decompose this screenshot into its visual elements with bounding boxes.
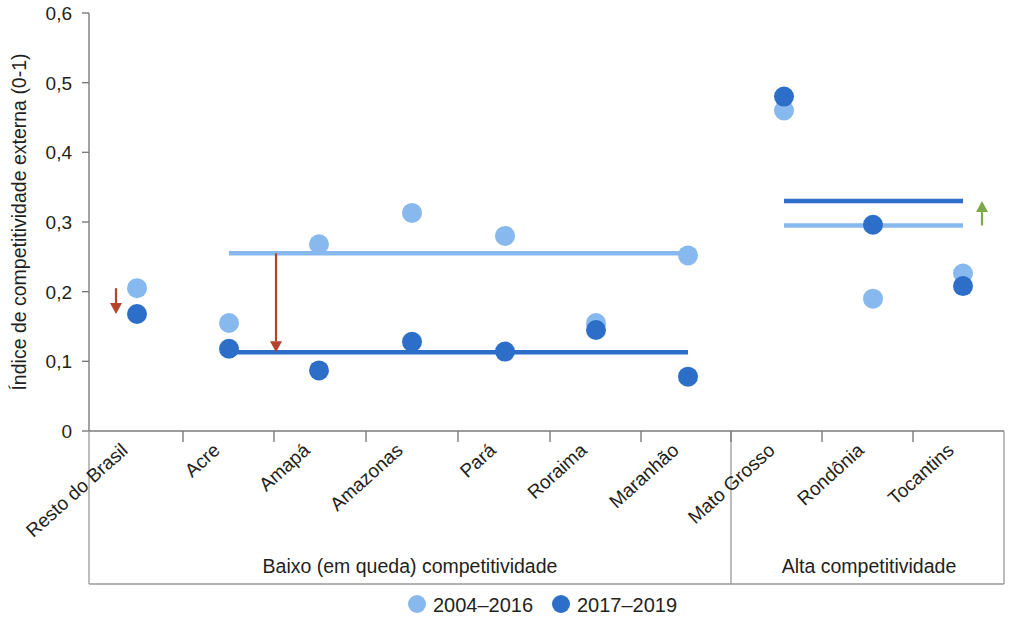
y-tick-label-1: 0,1: [46, 351, 72, 372]
competitiveness-index-scatter-chart: 00,10,20,30,40,50,6 Resto do BrasilAcreA…: [0, 0, 1010, 619]
data-point-2017-2019-roraima: [586, 320, 606, 340]
category-labels-group: Resto do BrasilAcreAmapáAmazonasParáRora…: [22, 439, 958, 541]
data-point-2004-2016-amazonas: [402, 203, 422, 223]
legend-swatch-2004-2016: [408, 595, 426, 613]
x-axis-label-acre: Acre: [181, 439, 224, 481]
data-point-2017-2019-pará: [495, 342, 515, 362]
decline-arrow-resto-do-brasil-head: [110, 303, 122, 314]
chart-container: 00,10,20,30,40,50,6 Resto do BrasilAcreA…: [0, 0, 1010, 619]
x-axis-label-roraima: Roraima: [523, 439, 591, 503]
group-label-low: Baixo (em queda) competitividade: [263, 555, 558, 577]
legend-label-2004-2016: 2004–2016: [433, 594, 533, 616]
x-axis-label-rondônia: Rondônia: [793, 439, 868, 509]
x-axis-label-amazonas: Amazonas: [326, 439, 407, 515]
y-tick-label-5: 0,5: [46, 73, 72, 94]
data-point-2017-2019-amapá: [309, 360, 329, 380]
y-axis-title: Índice de competitividade externa (0-1): [8, 53, 30, 390]
legend-swatch-2017-2019: [552, 595, 570, 613]
x-axis-ticks: [183, 431, 913, 442]
x-axis-label-resto-do-brasil: Resto do Brasil: [22, 439, 132, 541]
data-point-2017-2019-tocantins: [953, 276, 973, 296]
y-tick-label-3: 0,3: [46, 212, 72, 233]
data-point-2017-2019-resto-do-brasil: [127, 304, 147, 324]
rise-arrow-high-group-head: [976, 201, 988, 212]
data-point-2017-2019-amazonas: [402, 332, 422, 352]
x-axis-label-pará: Pará: [456, 439, 500, 482]
data-point-2004-2016-acre: [219, 313, 239, 333]
data-point-2004-2016-maranhão: [678, 245, 698, 265]
x-axis-label-amapá: Amapá: [255, 439, 314, 495]
y-tick-label-0: 0: [61, 421, 72, 442]
y-axis-ticks: 00,10,20,30,40,50,6: [46, 3, 89, 442]
data-point-2004-2016-rondônia: [863, 289, 883, 309]
data-point-2004-2016-pará: [495, 226, 515, 246]
y-tick-label-4: 0,4: [46, 142, 73, 163]
data-points-group: [127, 87, 973, 387]
data-point-2017-2019-maranhão: [678, 367, 698, 387]
x-axis-label-maranhão: Maranhão: [605, 439, 683, 512]
data-point-2017-2019-mato-grosso: [774, 87, 794, 107]
data-point-2017-2019-rondônia: [863, 215, 883, 235]
y-tick-label-2: 0,2: [46, 282, 72, 303]
group-label-high: Alta competitividade: [782, 555, 957, 577]
data-point-2004-2016-amapá: [309, 234, 329, 254]
legend-label-2017-2019: 2017–2019: [577, 594, 677, 616]
x-axis-label-tocantins: Tocantins: [884, 439, 958, 508]
data-point-2004-2016-resto-do-brasil: [127, 278, 147, 298]
chart-legend: 2004–2016 2017–2019: [408, 594, 677, 616]
data-point-2017-2019-acre: [219, 339, 239, 359]
y-tick-label-6: 0,6: [46, 3, 72, 24]
